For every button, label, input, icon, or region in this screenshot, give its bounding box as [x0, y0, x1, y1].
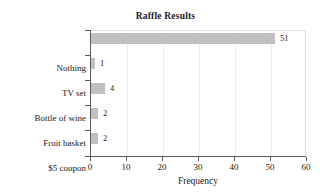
bar-tv-set	[91, 58, 95, 69]
bar-bottle-of-wine	[91, 83, 105, 94]
x-axis-tick-40	[234, 157, 235, 161]
gridline-30	[199, 30, 200, 156]
gridline-20	[163, 30, 164, 156]
x-axis-tick-0	[90, 157, 91, 161]
x-axis-label-50: 50	[258, 162, 282, 172]
y-axis-label-tv-set: TV set	[0, 88, 86, 99]
x-axis-label-10: 10	[114, 162, 138, 172]
plot-frame-right	[305, 30, 306, 156]
x-axis-label-0: 0	[78, 162, 102, 172]
x-axis-label-30: 30	[186, 162, 210, 172]
x-axis-label-60: 60	[294, 162, 318, 172]
bar-value-nothing: 51	[280, 33, 289, 44]
bar-5-coupon	[91, 133, 98, 144]
bar-value-5-coupon: 2	[103, 133, 107, 144]
y-axis-label-bottle-of-wine: Bottle of wine	[0, 113, 86, 124]
bar-value-fruit-basket: 2	[103, 108, 107, 119]
gridline-10	[127, 30, 128, 156]
x-axis-label-40: 40	[222, 162, 246, 172]
y-axis-labels: Nothing TV set Bottle of wine Fruit bask…	[0, 30, 86, 157]
x-axis-tick-10	[126, 157, 127, 161]
y-axis-label-5-coupon: $5 coupon	[0, 163, 86, 174]
x-axis-title: Frequency	[90, 176, 306, 186]
x-axis-tick-50	[270, 157, 271, 161]
chart-title: Raffle Results	[0, 11, 331, 21]
x-axis-tick-60	[306, 157, 307, 161]
gridline-50	[271, 30, 272, 156]
bar-value-bottle-of-wine: 4	[110, 83, 114, 94]
x-axis-tick-20	[162, 157, 163, 161]
bar-value-tv-set: 1	[100, 58, 104, 69]
chart-screenshot: Raffle Results Nothing TV set Bottle of …	[0, 0, 331, 196]
plot-inner: 51 1 4 2 2	[91, 30, 306, 156]
bar-fruit-basket	[91, 108, 98, 119]
gridline-40	[235, 30, 236, 156]
x-axis-label-20: 20	[150, 162, 174, 172]
plot-area: 51 1 4 2 2	[90, 30, 306, 157]
y-axis-label-fruit-basket: Fruit basket	[0, 138, 86, 149]
bar-nothing	[91, 33, 275, 44]
y-axis-label-nothing: Nothing	[0, 63, 86, 74]
x-axis-tick-30	[198, 157, 199, 161]
